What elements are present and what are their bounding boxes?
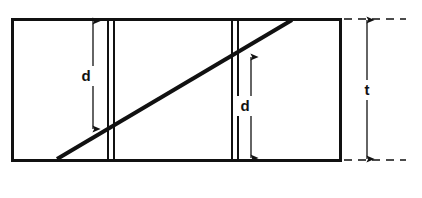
dimension-t-thickness: t <box>359 20 375 159</box>
technical-diagram: d d t <box>0 0 422 198</box>
dimension-t-label: t <box>365 81 370 98</box>
dimension-d-left-label: d <box>81 67 90 84</box>
dimension-d-right-label: d <box>240 97 249 114</box>
diagram-canvas: d d t <box>0 0 422 198</box>
